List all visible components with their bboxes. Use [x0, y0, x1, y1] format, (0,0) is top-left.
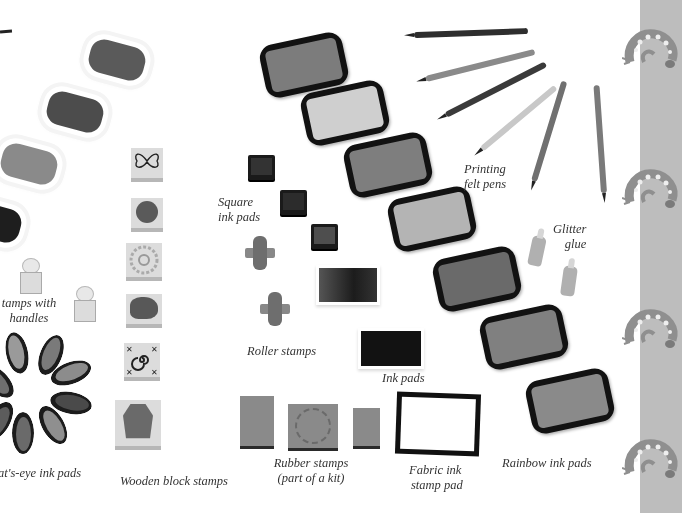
rainbow-ink-pad — [523, 366, 616, 436]
wooden-stamp-butterfly — [131, 148, 163, 182]
handle-stamp — [20, 258, 40, 292]
label-fabric-ink-pad: Fabric ink stamp pad — [409, 463, 463, 493]
rainbow-ink-pad — [477, 302, 570, 372]
fabric-ink-pad — [395, 392, 481, 457]
gecko-icon — [622, 34, 675, 68]
rainbow-ink-pad — [430, 244, 523, 314]
roller-stamp — [245, 236, 275, 270]
roller-stamp — [260, 292, 290, 326]
glitter-glue-bottle — [560, 265, 578, 297]
gecko-icon — [622, 314, 675, 348]
rubber-stamp-seahorse — [240, 396, 274, 449]
rubber-stamp-sunflower — [288, 404, 338, 451]
cats-eye-pad — [2, 330, 32, 376]
rainbow-ink-pad — [341, 130, 434, 200]
label-wooden-block: Wooden block stamps — [120, 474, 228, 489]
wooden-stamp-hexagon — [115, 400, 161, 450]
wooden-stamp-sun — [126, 243, 162, 281]
svg-text:✕: ✕ — [151, 368, 158, 377]
label-felt-pens: Printing felt pens — [464, 162, 506, 192]
rubber-stamp-rainbow — [353, 408, 380, 449]
svg-text:✕: ✕ — [126, 345, 133, 354]
label-cats-eye: at's-eye ink pads — [0, 466, 81, 481]
felt-pen — [593, 85, 607, 193]
rainbow-ink-pad — [385, 184, 478, 254]
cats-eye-pad — [12, 412, 34, 454]
square-ink-pad — [248, 155, 275, 180]
label-ink-pads: Ink pads — [382, 371, 425, 386]
felt-pen — [414, 28, 528, 38]
square-ink-pad — [280, 190, 307, 215]
ink-pad-rect — [316, 265, 380, 305]
glitter-glue-bottle — [527, 235, 547, 267]
label-square-ink-pads: Square ink pads — [218, 195, 260, 225]
label-glitter-glue: Glitter glue — [553, 222, 586, 252]
ink-pad — [79, 30, 154, 90]
gecko-icons — [622, 28, 682, 488]
wooden-stamp-circle — [131, 198, 163, 232]
pen-tip-partial — [0, 29, 12, 33]
svg-text:✕: ✕ — [126, 368, 133, 377]
ink-pad — [37, 82, 112, 142]
gecko-icon — [622, 444, 675, 478]
square-ink-pad — [311, 224, 338, 249]
handle-stamp — [74, 286, 94, 320]
svg-text:✕: ✕ — [151, 345, 158, 354]
label-roller-stamps: Roller stamps — [247, 344, 316, 359]
label-rainbow-ink-pads: Rainbow ink pads — [502, 456, 592, 471]
ink-pad-rect — [358, 328, 424, 369]
wooden-stamp-leaf — [126, 294, 162, 328]
gecko-icon — [622, 174, 675, 208]
ink-pad — [0, 134, 67, 194]
label-rubber-stamps: Rubber stamps (part of a kit) — [268, 456, 354, 486]
wooden-stamp-spiral: ✕✕✕✕ — [124, 343, 160, 381]
label-stamps-with-handles: tamps with handles — [0, 296, 64, 326]
ink-pad — [0, 192, 31, 252]
